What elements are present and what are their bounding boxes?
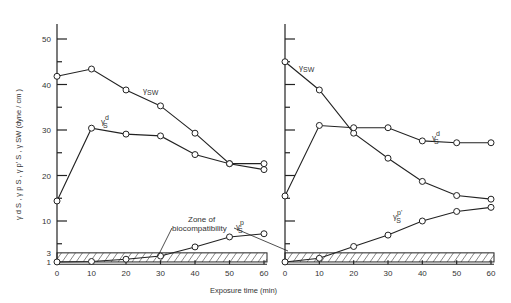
chart-canvas: 1310203040500102030405060 0102030405060 … [0, 0, 511, 303]
data-point [192, 244, 198, 250]
data-point [192, 130, 198, 136]
right-panel: 0102030405060 [282, 24, 496, 278]
data-point [261, 231, 267, 237]
label-gamma-ds-right: γdS [432, 130, 440, 145]
y-tick-label: 50 [42, 35, 51, 44]
data-point [385, 125, 391, 131]
zone-leader-right [234, 228, 288, 251]
x-tick-label: 30 [156, 269, 165, 278]
data-point [261, 161, 267, 167]
x-tick-label: 60 [487, 269, 496, 278]
x-tick-label: 20 [122, 269, 131, 278]
series-line [57, 69, 264, 170]
data-point [488, 140, 494, 146]
data-point [227, 234, 233, 240]
data-point [282, 59, 288, 65]
label-gamma-ds-left: γdS [101, 114, 109, 129]
data-point [123, 87, 129, 93]
data-point [351, 125, 357, 131]
zone-label-line2: biocompatibility [172, 224, 227, 233]
data-point [419, 178, 425, 184]
data-point [54, 259, 60, 265]
x-tick-label: 10 [315, 269, 324, 278]
data-point [54, 73, 60, 79]
data-point [123, 131, 129, 137]
x-tick-label: 10 [87, 269, 96, 278]
data-point [316, 255, 322, 261]
x-tick-label: 30 [384, 269, 393, 278]
data-point [54, 198, 60, 204]
y-tick-label: 10 [42, 217, 51, 226]
data-point [419, 218, 425, 224]
data-point [419, 138, 425, 144]
data-point [158, 133, 164, 139]
data-point [123, 256, 129, 262]
zone-label-line1: Zone of [188, 215, 216, 224]
data-point [316, 122, 322, 128]
y-tick-label: 1 [47, 258, 52, 267]
label-gamma-pprime-s-right: γp'S [393, 209, 402, 224]
x-tick-label: 50 [452, 269, 461, 278]
x-axis-title: Exposure time (min) [210, 286, 277, 295]
y-tick-label: 20 [42, 172, 51, 181]
y-axis-title: γ d S , γ p S , γ p' S , γ SW (dyne / cm… [14, 75, 23, 235]
data-point [89, 66, 95, 72]
data-point [454, 140, 460, 146]
x-tick-label: 0 [283, 269, 288, 278]
data-point [89, 125, 95, 131]
y-tick-label: 3 [47, 249, 52, 258]
data-point [89, 258, 95, 264]
data-point [454, 208, 460, 214]
data-point [282, 259, 288, 265]
data-point [488, 204, 494, 210]
y-axis-title-text: γ d S , γ p S , γ p' S , γ SW (dyne / cm… [14, 89, 23, 220]
left-panel: 1310203040500102030405060 [42, 24, 269, 278]
y-tick-label: 30 [42, 126, 51, 135]
x-tick-label: 0 [55, 269, 60, 278]
data-point [282, 193, 288, 199]
data-point [385, 232, 391, 238]
data-point [488, 196, 494, 202]
data-point [158, 103, 164, 109]
data-point [385, 155, 391, 161]
zone-leader-left [158, 228, 172, 256]
data-point [351, 243, 357, 249]
data-point [227, 161, 233, 167]
data-point [192, 152, 198, 158]
data-point [261, 167, 267, 173]
y-tick-label: 40 [42, 81, 51, 90]
x-tick-label: 40 [191, 269, 200, 278]
data-point [316, 87, 322, 93]
label-gamma-sw-left: γSW [143, 86, 159, 96]
x-tick-label: 40 [418, 269, 427, 278]
x-tick-label: 50 [225, 269, 234, 278]
x-tick-label: 60 [260, 269, 269, 278]
x-tick-label: 20 [349, 269, 358, 278]
label-gamma-sw-right: γSW [299, 63, 315, 73]
data-point [454, 193, 460, 199]
